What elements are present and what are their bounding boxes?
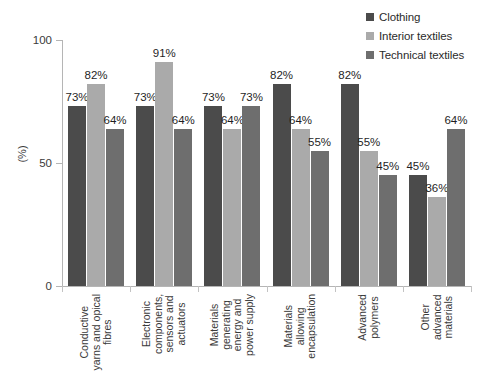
x-axis-category-label-text: Conductiveyarns and opicalfibres xyxy=(79,294,114,370)
bar xyxy=(136,106,154,286)
x-axis-tick xyxy=(62,286,63,292)
bar-value-label: 64% xyxy=(98,114,132,126)
legend-swatch-icon xyxy=(366,13,374,21)
x-axis-category-label: Materialsgeneratingenergy andpower suppl… xyxy=(198,294,266,382)
legend-swatch-icon xyxy=(366,32,374,40)
bar xyxy=(106,129,124,286)
bar-value-label: 91% xyxy=(147,47,181,59)
bar xyxy=(204,106,222,286)
bar xyxy=(155,62,173,286)
plot-area: 73%73%73%82%82%45%82%91%64%64%55%36%64%6… xyxy=(62,40,471,286)
y-axis-tick-label: 100 xyxy=(6,34,52,46)
y-axis-tick-label: 50 xyxy=(6,157,52,169)
x-axis-category-label: Electroniccomponents,sensors andactuator… xyxy=(130,294,198,382)
x-axis-tick xyxy=(403,286,404,292)
bar-value-label: 55% xyxy=(352,136,386,148)
bar-value-label: 82% xyxy=(79,69,113,81)
x-axis-tick xyxy=(130,286,131,292)
x-axis-category-label-text: Electroniccomponents,sensors andactuator… xyxy=(141,294,187,354)
y-axis-tick-label: 0 xyxy=(6,280,52,292)
bar-value-label: 64% xyxy=(166,114,200,126)
x-axis-tick xyxy=(198,286,199,292)
bar xyxy=(428,197,446,286)
bar-value-label: 82% xyxy=(333,69,367,81)
bar-value-label: 64% xyxy=(439,114,473,126)
bar-value-label: 73% xyxy=(234,91,268,103)
legend-item-clothing[interactable]: Clothing xyxy=(366,8,482,25)
bar xyxy=(379,175,397,286)
x-axis-category-label-text: Otheradvancedmaterials xyxy=(419,294,454,340)
bar xyxy=(174,129,192,286)
bar-value-label: 45% xyxy=(371,160,405,172)
bar-value-label: 45% xyxy=(401,160,435,172)
bar-value-label: 64% xyxy=(284,114,318,126)
bar xyxy=(223,129,241,286)
x-axis-category-label: Conductiveyarns and opicalfibres xyxy=(62,294,130,382)
bar-value-label: 82% xyxy=(265,69,299,81)
bar xyxy=(292,129,310,286)
x-axis-category-label: Materialsallowingencapsulation xyxy=(267,294,335,382)
x-axis-category-label: Advancedpolymers xyxy=(335,294,403,382)
bar-chart: Clothing Interior textiles Technical tex… xyxy=(0,0,483,383)
bar-value-label: 55% xyxy=(303,136,337,148)
bar xyxy=(311,151,329,286)
bar xyxy=(68,106,86,286)
x-axis-tick xyxy=(471,286,472,292)
bar xyxy=(242,106,260,286)
x-axis-category-label: Otheradvancedmaterials xyxy=(403,294,471,382)
x-axis-category-label-text: Materialsgeneratingenergy andpower suppl… xyxy=(209,294,255,356)
bar xyxy=(341,84,359,286)
bar xyxy=(447,129,465,286)
x-axis-category-label-text: Advancedpolymers xyxy=(357,294,380,341)
legend-item-label: Clothing xyxy=(379,11,420,23)
x-axis-category-label-text: Materialsallowingencapsulation xyxy=(283,294,318,359)
bar-value-label: 73% xyxy=(196,91,230,103)
x-axis-tick xyxy=(267,286,268,292)
x-axis-tick xyxy=(335,286,336,292)
